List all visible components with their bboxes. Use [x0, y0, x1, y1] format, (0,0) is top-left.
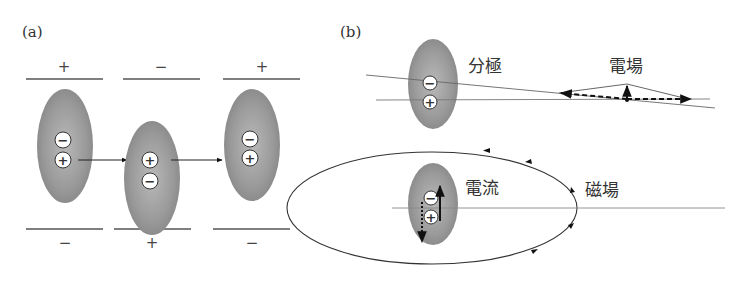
loop-direction-arrows	[483, 148, 575, 254]
magnetic-field-label: 磁場	[585, 180, 619, 200]
molecule-3: − +	[224, 89, 280, 201]
plate-sign: −	[59, 234, 72, 252]
charge-plus: +	[245, 151, 256, 166]
plate-sign: −	[155, 58, 168, 76]
loop-arrow-icon	[483, 148, 490, 153]
charge-minus: −	[58, 133, 69, 148]
field-envelope-line	[627, 84, 688, 99]
charge-plus: +	[426, 210, 437, 225]
plate-sign: +	[146, 234, 159, 252]
field-origin-dot	[625, 98, 629, 102]
charge-minus: −	[145, 174, 156, 189]
loop-arrow-icon	[525, 159, 532, 164]
molecule-1: − +	[37, 89, 93, 203]
loop-arrow-icon	[531, 249, 538, 254]
plate-sign: −	[246, 234, 259, 252]
panel-b: (b) − + 分極 電場	[287, 23, 725, 264]
charge-plus: +	[58, 153, 69, 168]
current-label: 電流	[465, 178, 499, 198]
plate-sign: +	[256, 58, 269, 76]
polarization-label: 分極	[468, 56, 502, 76]
charge-minus: −	[425, 76, 436, 91]
charge-plus: +	[145, 153, 156, 168]
field-envelope-line	[559, 84, 627, 93]
charge-minus: −	[426, 191, 437, 206]
plate-sign: +	[58, 58, 71, 76]
molecule-2: + −	[124, 121, 180, 235]
charge-minus: −	[245, 132, 256, 147]
panel-a: (a) + − + − + − − +	[22, 23, 300, 252]
panel-b-label: (b)	[340, 23, 361, 41]
electric-field-label: 電場	[609, 56, 643, 76]
dashed-arrow-left	[561, 93, 627, 99]
charge-plus: +	[425, 95, 436, 110]
top-plates: + − +	[26, 58, 300, 79]
diagram-figure: (a) + − + − + − − +	[0, 0, 743, 281]
panel-a-label: (a)	[22, 23, 43, 41]
loop-arrow-icon	[570, 187, 575, 193]
